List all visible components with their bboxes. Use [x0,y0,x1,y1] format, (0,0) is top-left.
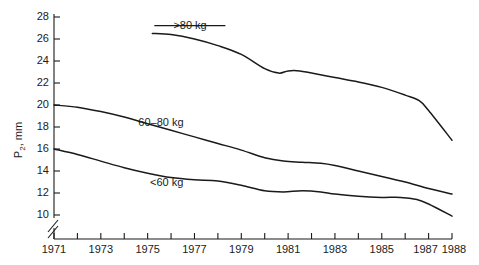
y-tick-label: 20 [37,98,49,110]
x-tick-label: 1988 [442,243,466,255]
x-tick-label: 1983 [323,243,347,255]
x-tick-label: 1971 [42,243,66,255]
y-tick-label: 10 [37,208,49,220]
y-tick-label: 16 [37,142,49,154]
x-tick-label: 1973 [89,243,113,255]
y-tick-label: 18 [37,120,49,132]
y-tick-label: 24 [37,54,49,66]
series-label-2: 60–80 kg [138,116,183,128]
x-tick-label: 1987 [413,243,437,255]
y-axis-title: P2, mm [12,122,27,158]
x-axis: 1971197319751977197919811983198519871988 [42,233,466,255]
axis-break-icon [48,220,58,232]
y-tick-label: 12 [37,186,49,198]
y-tick-label: 22 [37,76,49,88]
x-tick-label: 1975 [135,243,159,255]
axis-break-icon [48,226,58,238]
x-tick-label: 1977 [182,243,206,255]
x-tick-label: 1979 [229,243,253,255]
series-line-3 [54,149,452,216]
y-tick-label: 14 [37,164,49,176]
y-axis: 10121416182022242628 [37,10,60,239]
x-tick-label: 1981 [276,243,300,255]
series-line-2 [54,105,452,194]
series-line-1 [152,34,452,141]
chart-container: 10121416182022242628 1971197319751977197… [0,0,479,265]
line-chart: 10121416182022242628 1971197319751977197… [0,0,479,265]
series-lines [54,34,452,217]
series-label-3: <60 kg [150,176,183,188]
y-tick-label: 28 [37,10,49,22]
x-tick-label: 1985 [370,243,394,255]
y-tick-label: 26 [37,32,49,44]
